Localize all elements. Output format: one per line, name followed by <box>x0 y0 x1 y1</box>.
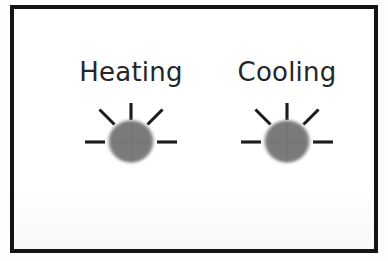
indicator-cooling[interactable]: Cooling <box>207 57 367 173</box>
panel-frame: Heating <box>10 5 378 253</box>
indicator-panel: Heating <box>0 0 388 261</box>
lamp-indicator-icon-cooling[interactable] <box>237 97 337 173</box>
indicator-cooling-label: Cooling <box>207 57 367 87</box>
indicator-heating[interactable]: Heating <box>51 57 211 173</box>
indicator-row: Heating <box>14 9 374 249</box>
lamp-indicator-icon-heating[interactable] <box>81 97 181 173</box>
indicator-heating-label: Heating <box>51 57 211 87</box>
